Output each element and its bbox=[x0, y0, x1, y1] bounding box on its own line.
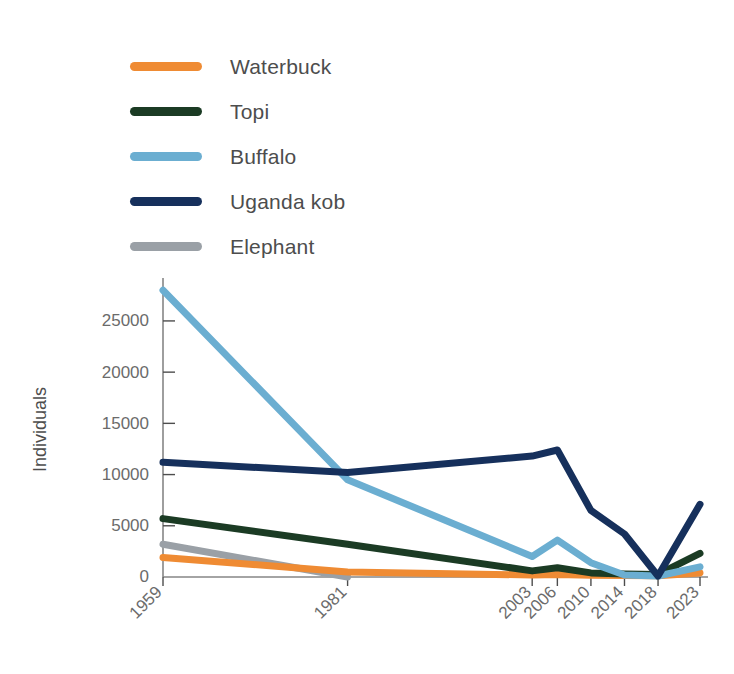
y-tick-label: 15000 bbox=[102, 414, 149, 433]
legend-swatch-icon bbox=[130, 107, 202, 116]
legend-swatch-icon bbox=[130, 62, 202, 71]
x-tick-label: 1981 bbox=[310, 582, 350, 622]
legend-item-label: Uganda kob bbox=[230, 190, 345, 214]
y-tick-label: 10000 bbox=[102, 465, 149, 484]
line-chart-svg: 0500010000150002000025000195919812003200… bbox=[0, 272, 734, 674]
chart-figure: WaterbuckTopiBuffaloUganda kobElephant 0… bbox=[0, 0, 734, 674]
y-tick-label: 20000 bbox=[102, 363, 149, 382]
plot-area: 0500010000150002000025000195919812003200… bbox=[0, 272, 734, 674]
y-axis-title: Individuals bbox=[30, 387, 50, 472]
legend-swatch-icon bbox=[130, 152, 202, 161]
legend-item-label: Buffalo bbox=[230, 145, 296, 169]
x-tick-label: 2018 bbox=[621, 582, 661, 622]
x-tick-label: 2010 bbox=[554, 582, 594, 622]
legend-item-topi[interactable]: Topi bbox=[130, 89, 560, 134]
legend-item-elephant[interactable]: Elephant bbox=[130, 224, 560, 269]
legend-swatch-icon bbox=[130, 242, 202, 251]
x-tick-label: 2014 bbox=[587, 582, 627, 622]
legend-item-label: Waterbuck bbox=[230, 55, 331, 79]
x-tick-label: 1959 bbox=[126, 582, 166, 622]
y-tick-label: 25000 bbox=[102, 311, 149, 330]
legend-item-waterbuck[interactable]: Waterbuck bbox=[130, 44, 560, 89]
y-tick-label: 5000 bbox=[111, 516, 149, 535]
legend-item-buffalo[interactable]: Buffalo bbox=[130, 134, 560, 179]
chart-legend: WaterbuckTopiBuffaloUganda kobElephant bbox=[130, 44, 560, 269]
x-tick-label: 2023 bbox=[663, 582, 703, 622]
legend-item-label: Topi bbox=[230, 100, 269, 124]
legend-swatch-icon bbox=[130, 197, 202, 206]
legend-item-label: Elephant bbox=[230, 235, 315, 259]
legend-item-uganda-kob[interactable]: Uganda kob bbox=[130, 179, 560, 224]
y-tick-label: 0 bbox=[140, 567, 149, 586]
